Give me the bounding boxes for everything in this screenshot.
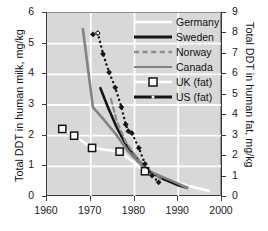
y2-tick-mark [221,73,226,74]
y2-tick-label: 1 [232,170,250,180]
y2-tick-mark [221,32,226,33]
y-tick-mark [42,43,47,44]
legend-label-germany: Germany [173,15,219,29]
legend-label-sweden: Sweden [173,30,214,44]
marker-diamond [136,145,142,151]
legend-swatch-canada [133,60,173,74]
y-axis-title: Total DDT in human milk, mg/kg [13,29,25,182]
y2-tick-mark [221,176,226,177]
y-tick-label: 0 [16,190,34,200]
legend-swatch-sweden [133,30,173,44]
x-tick-label: 1960 [26,204,66,216]
y-tick-mark [42,73,47,74]
legend-label-norway: Norway [173,45,212,59]
ddt-trend-chart: 6543210 9876543210 19601970198019902000 … [0,0,268,231]
legend-item-sweden[interactable]: Sweden [133,29,221,44]
y2-tick-label: 9 [232,6,250,16]
legend-item-germany[interactable]: Germany [133,14,221,29]
marker-square [59,125,66,132]
legend-swatch-uk-fat [133,75,173,89]
x-tick-label: 1980 [114,204,154,216]
y-tick-mark [42,12,47,13]
y-tick-label: 6 [16,6,34,16]
x-tick-mark [46,196,47,201]
y2-axis-title: Total DDT in human fat, mg/kg [244,22,256,168]
marker-diamond [118,104,124,110]
x-tick-mark [90,196,91,201]
y2-tick-mark [221,12,226,13]
legend-swatch-norway [133,45,173,59]
y2-tick-label: 0 [232,190,250,200]
x-tick-label: 1990 [157,204,197,216]
legend-swatch-germany [133,15,173,29]
legend-item-norway[interactable]: Norway [133,44,221,59]
y-tick-mark [42,165,47,166]
legend-item-us-fat[interactable]: US (fat) [133,89,221,104]
marker-diamond [112,85,118,91]
y2-tick-mark [221,53,226,54]
legend-label-us-fat: US (fat) [173,90,212,104]
right-axis-line [221,12,222,196]
legend: GermanySwedenNorwayCanadaUK (fat)US (fat… [133,14,221,104]
us-fat-highlight-dot [96,32,99,35]
y-tick-mark [42,135,47,136]
y-tick-mark [42,104,47,105]
legend-item-canada[interactable]: Canada [133,59,221,74]
x-tick-label: 1970 [70,204,110,216]
marker-diamond [90,32,96,38]
legend-label-uk-fat: UK (fat) [173,75,212,89]
x-tick-mark [134,196,135,201]
marker-square [116,148,123,155]
marker-diamond [100,51,106,57]
marker-square [88,144,95,151]
legend-label-canada: Canada [173,60,213,74]
y2-tick-mark [221,155,226,156]
x-tick-mark [221,196,222,201]
y2-tick-mark [221,94,226,95]
x-tick-label: 2000 [201,204,241,216]
legend-swatch-us-fat [133,90,173,104]
y2-tick-mark [221,114,226,115]
x-tick-mark [177,196,178,201]
legend-item-uk-fat[interactable]: UK (fat) [133,74,221,89]
marker-square [71,132,78,139]
marker-diamond [106,69,112,75]
y2-tick-mark [221,135,226,136]
